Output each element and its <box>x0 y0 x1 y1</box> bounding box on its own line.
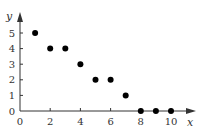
scatter-chart: 0246810012345 x y <box>0 0 202 130</box>
data-point <box>138 108 144 114</box>
x-tick-label: 10 <box>165 116 178 127</box>
y-tick-label: 1 <box>9 90 15 101</box>
data-point <box>168 108 174 114</box>
x-tick-label: 0 <box>17 116 23 127</box>
y-tick-label: 2 <box>9 74 15 85</box>
data-point <box>62 46 68 52</box>
y-tick-label: 0 <box>9 106 15 117</box>
ticks: 0246810012345 <box>9 28 178 128</box>
y-tick-label: 3 <box>9 59 15 70</box>
data-point <box>123 92 129 98</box>
x-tick-label: 6 <box>107 116 113 127</box>
data-point <box>32 30 38 36</box>
x-axis-arrow-icon <box>186 108 196 114</box>
data-point <box>47 46 53 52</box>
axes <box>17 12 196 114</box>
data-point <box>93 77 99 83</box>
data-point <box>77 61 83 67</box>
data-point <box>108 77 114 83</box>
data-point <box>153 108 159 114</box>
x-tick-label: 4 <box>77 116 83 127</box>
y-axis-label: y <box>5 10 13 23</box>
y-tick-label: 4 <box>9 43 15 54</box>
x-axis-label: x <box>187 116 194 129</box>
data-points <box>32 30 174 114</box>
x-tick-label: 8 <box>138 116 144 127</box>
y-tick-label: 5 <box>9 28 15 39</box>
x-tick-label: 2 <box>47 116 53 127</box>
y-axis-arrow-icon <box>17 12 23 22</box>
